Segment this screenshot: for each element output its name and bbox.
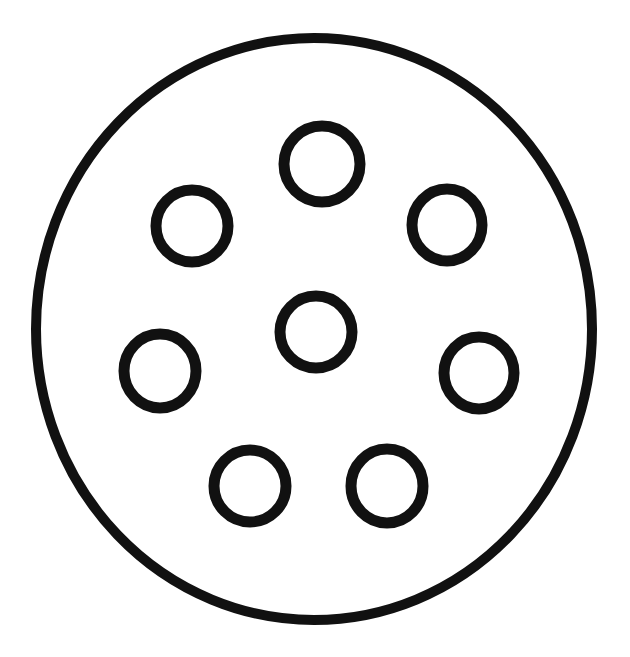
canvas-background [0, 0, 630, 657]
drawing-canvas [0, 0, 630, 657]
technical-drawing-figure [0, 0, 630, 657]
